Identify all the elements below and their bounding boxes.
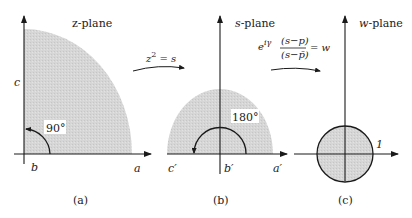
axis-label-c: c [14, 76, 20, 89]
mapping-arrow-z-to-s: z2 = s [133, 50, 184, 71]
axis-label-b-prime: b′ [224, 162, 234, 175]
caption-b: (b) [213, 194, 229, 207]
formula-denominator: (s−p̄) [281, 49, 309, 60]
axis-label-a-prime: a′ [273, 162, 283, 175]
caption-c: (c) [338, 194, 353, 207]
axis-label-a: a [134, 162, 141, 175]
plane-title-s: s-plane [235, 17, 275, 30]
formula-z-squared: z2 = s [145, 50, 176, 64]
panel-a-z-plane: 90° c b a z-plane (a) [14, 16, 151, 207]
angle-label-90: 90° [46, 122, 66, 135]
axis-label-c-prime: c′ [168, 162, 177, 175]
formula-exp-factor: eiγ [258, 38, 271, 52]
axis-label-b: b [31, 161, 38, 174]
radius-label-1: 1 [376, 138, 383, 151]
formula-rhs: = w [310, 42, 331, 53]
caption-a: (a) [73, 194, 88, 207]
conformal-mapping-figure: 90° c b a z-plane (a) z2 = s [0, 0, 412, 218]
mapping-arrow-1 [133, 67, 184, 71]
formula-numerator: (s−p) [281, 35, 309, 46]
mapping-arrow-2 [271, 68, 320, 71]
mapping-arrow-s-to-w: eiγ (s−p) (s−p̄) = w [258, 35, 331, 71]
angle-label-180: 180° [232, 111, 259, 124]
plane-title-w: w-plane [359, 17, 403, 30]
plane-title-z: z-plane [72, 17, 112, 30]
